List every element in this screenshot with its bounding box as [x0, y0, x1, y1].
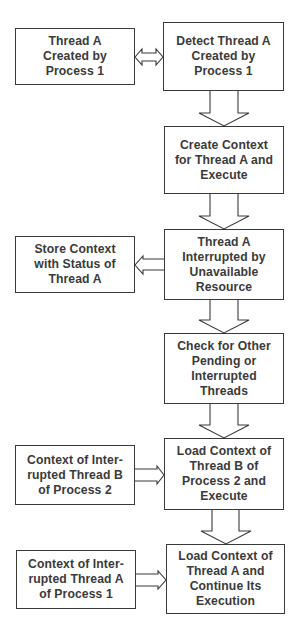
node-label: Create Context for Thread A and Execute [175, 138, 273, 183]
node-create-context: Create Context for Thread A and Execute [164, 126, 284, 194]
node-thread-a-interrupted: Thread A Interrupted by Unavailable Reso… [164, 229, 284, 300]
node-store-context: Store Context with Status of Thread A [15, 236, 135, 293]
down-arrow-n2-n3 [199, 91, 249, 126]
down-arrow-n8-n10 [201, 510, 251, 544]
node-thread-a-created: Thread A Created by Process 1 [15, 28, 135, 85]
node-load-context-thread-b: Load Context of Thread B of Process 2 an… [164, 438, 284, 510]
right-arrow-n9-n10 [136, 571, 166, 589]
node-label: Load Context of Thread A and Continue It… [178, 549, 272, 609]
right-arrow-n7-n8 [135, 466, 164, 484]
down-arrow-n5-n6 [199, 300, 249, 333]
node-context-thread-a: Context of Inter- rupted Thread A of Pro… [16, 550, 136, 609]
node-label: Context of Inter- rupted Thread B of Pro… [27, 453, 123, 498]
node-context-thread-b: Context of Inter- rupted Thread B of Pro… [15, 445, 135, 505]
node-label: Store Context with Status of Thread A [34, 242, 115, 287]
node-label: Thread A Created by Process 1 [43, 34, 107, 79]
left-arrow-n5-n4 [135, 256, 164, 274]
flow-arrows [0, 0, 300, 626]
node-label: Context of Inter- rupted Thread A of Pro… [28, 557, 124, 602]
node-load-context-thread-a: Load Context of Thread A and Continue It… [166, 544, 285, 614]
down-arrow-n6-n8 [199, 404, 249, 438]
node-label: Detect Thread A Created by Process 1 [176, 34, 271, 79]
node-label: Thread A Interrupted by Unavailable Reso… [182, 235, 265, 295]
node-label: Check for Other Pending or Interrupted T… [177, 339, 271, 399]
node-detect-thread-a: Detect Thread A Created by Process 1 [163, 22, 284, 91]
double-arrow-n1-n2 [135, 49, 163, 65]
down-arrow-n3-n5 [199, 194, 249, 229]
node-label: Load Context of Thread B of Process 2 an… [177, 444, 271, 504]
node-check-other-threads: Check for Other Pending or Interrupted T… [164, 333, 284, 404]
